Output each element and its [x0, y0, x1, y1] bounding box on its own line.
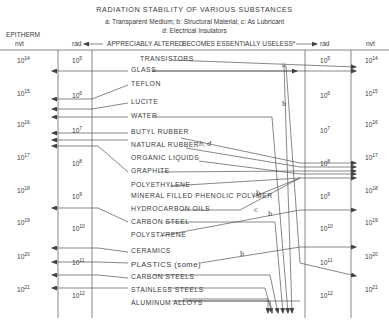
- material-stainless-steels: STAINLESS STEELS: [131, 287, 204, 294]
- left-rad-value: 1012: [72, 291, 85, 300]
- material-lucite: LUCITE: [131, 99, 158, 106]
- label-glass-a: a: [282, 62, 286, 69]
- right-rad-value: 1012: [320, 291, 333, 300]
- left-nvt-value: 1016: [17, 120, 30, 129]
- left-rad-value: 108: [72, 159, 82, 168]
- material-ceramics: CERAMICS: [131, 248, 171, 255]
- material-teflon: TEFLON: [131, 81, 161, 88]
- material-natural-rubber: NATURAL RUBBER: [131, 142, 199, 149]
- right-nvt-value: 1015: [365, 89, 378, 98]
- material-mineral-filled-phenolic-polymer: MINERAL FILLED PHENOLIC POLYMER: [131, 193, 273, 200]
- label-glass-b: b: [282, 101, 286, 108]
- material-polyethylene: POLYETHYLENE: [131, 182, 191, 189]
- right-nvt-value: 1016: [365, 120, 378, 129]
- label-polystyrene-b: b: [268, 211, 272, 218]
- right-rad-value: 1010: [320, 224, 333, 233]
- left-nvt-value: 1020: [17, 252, 30, 261]
- left-nvt-value: 1019: [17, 218, 30, 227]
- left-nvt-value: 1014: [17, 56, 30, 65]
- right-rad-value: 106: [320, 91, 330, 100]
- material-aluminum-alloys: ALUMINUM ALLOYS: [131, 300, 203, 307]
- right-rad-value: 105: [320, 56, 330, 65]
- material-carbon-steels: CARBON STEELS: [131, 274, 195, 281]
- left-rad-value: 1011: [72, 258, 85, 267]
- material-plastics-some: PLASTICS (some): [131, 261, 201, 269]
- left-rad-value: 106: [72, 91, 82, 100]
- left-rad-value: 109: [72, 192, 82, 201]
- right-nvt-value: 1020: [365, 252, 378, 261]
- material-polystyrene: POLYSTYRENE: [131, 232, 186, 239]
- material-graphite: GRAPHITE: [131, 168, 170, 175]
- right-nvt-value: 1018: [365, 186, 378, 195]
- left-nvt-value: 1021: [17, 285, 30, 294]
- material-hydrocarbon-oils: HYDROCARBON OILS: [131, 206, 210, 213]
- right-rad-value: 109: [320, 192, 330, 201]
- right-rad-value: 107: [320, 126, 330, 135]
- left-arrows: [52, 71, 128, 288]
- left-nvt-value: 1017: [17, 153, 30, 162]
- left-rad-value: 105: [72, 56, 82, 65]
- material-carbon-steel: CARBON STEEL: [131, 219, 190, 226]
- label-plastics-b: b: [240, 251, 244, 258]
- left-rad-value: 1010: [72, 224, 85, 233]
- right-nvt-value: 1017: [365, 153, 378, 162]
- right-nvt-value: 1019: [365, 218, 378, 227]
- right-nvt-value: 1021: [365, 285, 378, 294]
- left-nvt-value: 1018: [17, 186, 30, 195]
- left-rad-value: 107: [72, 126, 82, 135]
- label-natural-rubber-bd: b, d: [199, 141, 211, 148]
- material-butyl-rubber: BUTYL RUBBER: [131, 129, 189, 136]
- label-hydrocarbon-c: c: [254, 207, 258, 214]
- material-transistors: TRANSISTORS: [140, 56, 194, 63]
- left-nvt-value: 1015: [17, 89, 30, 98]
- right-rad-value: 1011: [320, 258, 333, 267]
- right-nvt-value: 1014: [365, 56, 378, 65]
- right-rad-value: 108: [320, 159, 330, 168]
- material-glass: GLASS: [131, 67, 156, 74]
- material-water: WATER: [131, 113, 157, 120]
- label-polyethylene-b: b: [256, 190, 260, 197]
- material-organic-liquids: ORGANIC LIQUIDS: [131, 155, 199, 162]
